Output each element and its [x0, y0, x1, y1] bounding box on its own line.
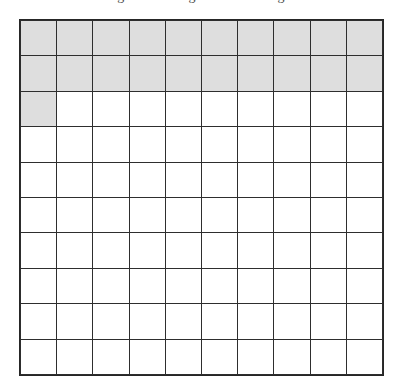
grid-cell-empty[interactable]	[310, 127, 346, 162]
grid-cell-empty[interactable]	[93, 162, 129, 197]
grid-cell-empty[interactable]	[201, 268, 237, 303]
grid-cell-empty[interactable]	[201, 197, 237, 232]
grid-cell-empty[interactable]	[57, 91, 93, 126]
grid-cell-empty[interactable]	[201, 233, 237, 268]
grid-cell-shaded[interactable]	[274, 21, 310, 56]
grid-cell-shaded[interactable]	[201, 21, 237, 56]
grid-cell-empty[interactable]	[57, 339, 93, 374]
grid-cell-shaded[interactable]	[310, 21, 346, 56]
grid-cell-empty[interactable]	[93, 304, 129, 339]
grid-cell-empty[interactable]	[129, 268, 165, 303]
grid-cell-empty[interactable]	[129, 233, 165, 268]
grid-cell-empty[interactable]	[93, 91, 129, 126]
grid-cell-empty[interactable]	[21, 197, 57, 232]
grid-cell-shaded[interactable]	[201, 56, 237, 91]
grid-cell-empty[interactable]	[238, 233, 274, 268]
grid-cell-empty[interactable]	[310, 162, 346, 197]
grid-cell-empty[interactable]	[129, 162, 165, 197]
grid-cell-empty[interactable]	[21, 233, 57, 268]
grid-cell-empty[interactable]	[310, 304, 346, 339]
grid-cell-empty[interactable]	[274, 162, 310, 197]
grid-cell-empty[interactable]	[238, 127, 274, 162]
grid-cell-empty[interactable]	[310, 339, 346, 374]
grid-cell-empty[interactable]	[310, 197, 346, 232]
grid-cell-empty[interactable]	[129, 339, 165, 374]
grid-cell-empty[interactable]	[238, 91, 274, 126]
grid-cell-empty[interactable]	[21, 127, 57, 162]
grid-cell-empty[interactable]	[346, 339, 382, 374]
grid-cell-empty[interactable]	[346, 91, 382, 126]
grid-cell-empty[interactable]	[346, 268, 382, 303]
grid-cell-empty[interactable]	[346, 127, 382, 162]
grid-cell-empty[interactable]	[165, 127, 201, 162]
grid-cell-empty[interactable]	[93, 127, 129, 162]
grid-cell-empty[interactable]	[165, 197, 201, 232]
grid-cell-empty[interactable]	[21, 162, 57, 197]
grid-cell-empty[interactable]	[238, 197, 274, 232]
grid-cell-empty[interactable]	[165, 339, 201, 374]
grid-cell-empty[interactable]	[93, 197, 129, 232]
grid-cell-empty[interactable]	[346, 233, 382, 268]
grid-cell-empty[interactable]	[201, 304, 237, 339]
grid-cell-empty[interactable]	[310, 233, 346, 268]
grid-cell-empty[interactable]	[165, 162, 201, 197]
grid-cell-empty[interactable]	[129, 304, 165, 339]
grid-cell-empty[interactable]	[93, 233, 129, 268]
grid-cell-empty[interactable]	[129, 91, 165, 126]
grid-cell-empty[interactable]	[201, 162, 237, 197]
grid-cell-shaded[interactable]	[129, 56, 165, 91]
grid-cell-shaded[interactable]	[93, 21, 129, 56]
grid-cell-empty[interactable]	[310, 91, 346, 126]
grid-cell-empty[interactable]	[57, 127, 93, 162]
grid-cell-shaded[interactable]	[346, 21, 382, 56]
grid-cell-empty[interactable]	[201, 127, 237, 162]
grid-cell-empty[interactable]	[57, 162, 93, 197]
grid-cell-shaded[interactable]	[93, 56, 129, 91]
grid-cell-empty[interactable]	[274, 233, 310, 268]
grid-cell-shaded[interactable]	[274, 56, 310, 91]
grid-cell-empty[interactable]	[274, 197, 310, 232]
grid-cell-empty[interactable]	[274, 268, 310, 303]
grid-cell-shaded[interactable]	[21, 91, 57, 126]
grid-cell-empty[interactable]	[21, 339, 57, 374]
grid-cell-empty[interactable]	[129, 197, 165, 232]
grid-cell-shaded[interactable]	[21, 56, 57, 91]
grid-cell-empty[interactable]	[57, 233, 93, 268]
grid-cell-empty[interactable]	[346, 162, 382, 197]
grid-cell-shaded[interactable]	[129, 21, 165, 56]
grid-cell-empty[interactable]	[57, 304, 93, 339]
grid-cell-shaded[interactable]	[57, 56, 93, 91]
grid-cell-empty[interactable]	[165, 268, 201, 303]
grid-cell-empty[interactable]	[238, 339, 274, 374]
grid-cell-empty[interactable]	[310, 268, 346, 303]
grid-cell-empty[interactable]	[201, 91, 237, 126]
grid-cell-empty[interactable]	[201, 339, 237, 374]
grid-cell-empty[interactable]	[274, 339, 310, 374]
grid-cell-empty[interactable]	[21, 268, 57, 303]
grid-cell-empty[interactable]	[129, 127, 165, 162]
grid-cell-shaded[interactable]	[57, 21, 93, 56]
grid-cell-empty[interactable]	[165, 304, 201, 339]
grid-cell-empty[interactable]	[346, 197, 382, 232]
grid-cell-empty[interactable]	[274, 304, 310, 339]
grid-cell-empty[interactable]	[274, 127, 310, 162]
grid-cell-empty[interactable]	[165, 91, 201, 126]
grid-cell-shaded[interactable]	[21, 21, 57, 56]
grid-cell-shaded[interactable]	[238, 21, 274, 56]
grid-cell-shaded[interactable]	[346, 56, 382, 91]
grid-cell-shaded[interactable]	[310, 56, 346, 91]
grid-cell-shaded[interactable]	[165, 56, 201, 91]
grid-cell-empty[interactable]	[238, 304, 274, 339]
grid-cell-empty[interactable]	[346, 304, 382, 339]
grid-cell-empty[interactable]	[274, 91, 310, 126]
grid-cell-shaded[interactable]	[165, 21, 201, 56]
grid-cell-empty[interactable]	[21, 304, 57, 339]
grid-cell-empty[interactable]	[238, 268, 274, 303]
grid-cell-empty[interactable]	[165, 233, 201, 268]
grid-cell-shaded[interactable]	[238, 56, 274, 91]
grid-cell-empty[interactable]	[93, 268, 129, 303]
grid-cell-empty[interactable]	[238, 162, 274, 197]
grid-cell-empty[interactable]	[57, 268, 93, 303]
grid-cell-empty[interactable]	[57, 197, 93, 232]
grid-cell-empty[interactable]	[93, 339, 129, 374]
